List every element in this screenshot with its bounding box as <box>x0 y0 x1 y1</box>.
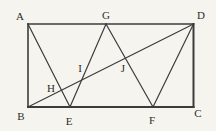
geometry-figure-container: AGDBEFCHIJ <box>0 0 216 131</box>
point-label-F: F <box>149 114 155 126</box>
point-label-A: A <box>16 10 24 22</box>
segment-BD <box>28 24 194 107</box>
segment-DF <box>153 24 194 107</box>
point-label-I: I <box>78 62 82 74</box>
point-label-C: C <box>194 107 201 119</box>
segment-GE <box>70 24 106 107</box>
segment-AE <box>28 24 70 107</box>
point-label-G: G <box>102 9 110 21</box>
rectangle-abcd-diagram: AGDBEFCHIJ <box>0 0 216 131</box>
point-label-H: H <box>47 82 55 94</box>
point-label-J: J <box>121 62 126 74</box>
point-label-D: D <box>197 9 205 21</box>
point-label-E: E <box>66 115 73 127</box>
point-label-B: B <box>17 110 24 122</box>
segment-GF <box>106 24 153 107</box>
